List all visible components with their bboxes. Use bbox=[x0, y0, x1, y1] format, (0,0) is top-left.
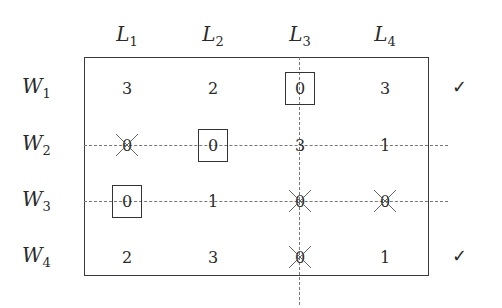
row-label-3: W3 bbox=[22, 187, 62, 214]
row-label-base: W bbox=[22, 187, 43, 211]
row-label-subscript: 1 bbox=[43, 86, 51, 101]
column-label-base: L bbox=[116, 22, 129, 46]
cell-value: 0 bbox=[122, 136, 132, 155]
column-label-4: L4 bbox=[365, 22, 405, 49]
row-label-base: W bbox=[22, 243, 43, 267]
check-mark-icon: ✓ bbox=[452, 245, 467, 266]
row-label-base: W bbox=[22, 74, 43, 98]
column-label-subscript: 1 bbox=[130, 34, 138, 49]
cell-value: 0 bbox=[380, 192, 390, 211]
cell-value: 1 bbox=[380, 136, 390, 155]
cell-value: 1 bbox=[380, 248, 390, 267]
row-label-base: W bbox=[22, 131, 43, 155]
row-label-2: W2 bbox=[22, 131, 62, 158]
column-label-3: L3 bbox=[280, 22, 320, 49]
column-label-subscript: 4 bbox=[388, 34, 396, 49]
matrix-cell: 3 bbox=[370, 73, 400, 103]
assigned-zero-cell: 0 bbox=[285, 72, 315, 105]
matrix-cell: 3 bbox=[285, 130, 315, 160]
row-label-subscript: 3 bbox=[43, 199, 51, 214]
row-label-4: W4 bbox=[22, 243, 62, 270]
cell-value: 0 bbox=[208, 136, 218, 155]
matrix-cell: 3 bbox=[112, 73, 142, 103]
column-label-subscript: 2 bbox=[216, 34, 224, 49]
cell-value: 0 bbox=[295, 79, 305, 98]
crossed-zero-cell: 0 bbox=[285, 186, 315, 216]
column-label-2: L2 bbox=[193, 22, 233, 49]
cell-value: 3 bbox=[122, 79, 132, 98]
matrix-cell: 1 bbox=[198, 186, 228, 216]
cell-value: 0 bbox=[295, 192, 305, 211]
assigned-zero-cell: 0 bbox=[198, 129, 228, 162]
matrix-cell: 3 bbox=[198, 242, 228, 272]
cell-value: 3 bbox=[208, 248, 218, 267]
cell-value: 1 bbox=[208, 192, 218, 211]
row-label-1: W1 bbox=[22, 74, 62, 101]
column-label-base: L bbox=[374, 22, 387, 46]
cell-value: 0 bbox=[295, 248, 305, 267]
cell-value: 2 bbox=[208, 79, 218, 98]
cell-value: 3 bbox=[380, 79, 390, 98]
column-label-base: L bbox=[289, 22, 302, 46]
crossed-zero-cell: 0 bbox=[112, 130, 142, 160]
matrix-cell: 2 bbox=[198, 73, 228, 103]
matrix-cell: 2 bbox=[112, 242, 142, 272]
cell-value: 2 bbox=[122, 248, 132, 267]
check-mark-icon: ✓ bbox=[452, 76, 467, 97]
row-label-subscript: 4 bbox=[43, 255, 51, 270]
matrix-cell: 1 bbox=[370, 130, 400, 160]
row-label-subscript: 2 bbox=[43, 143, 51, 158]
cell-value: 3 bbox=[295, 136, 305, 155]
matrix-cell: 1 bbox=[370, 242, 400, 272]
column-label-1: L1 bbox=[107, 22, 147, 49]
assigned-zero-cell: 0 bbox=[112, 185, 142, 218]
crossed-zero-cell: 0 bbox=[285, 242, 315, 272]
cell-value: 0 bbox=[122, 192, 132, 211]
column-label-base: L bbox=[202, 22, 215, 46]
crossed-zero-cell: 0 bbox=[370, 186, 400, 216]
column-label-subscript: 3 bbox=[303, 34, 311, 49]
